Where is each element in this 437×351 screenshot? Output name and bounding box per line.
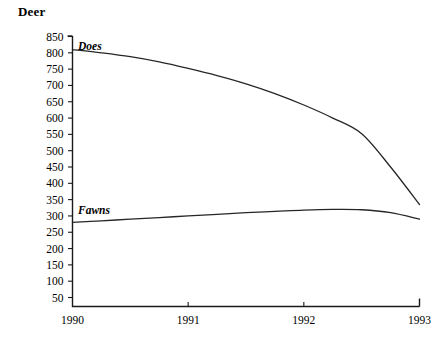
y-axis-tick-label: 700 <box>46 79 64 91</box>
y-axis-tick-label: 650 <box>46 96 64 108</box>
y-axis-tick-label: 50 <box>52 292 64 304</box>
deer-population-chart: Deer 50100150200250300350400450500550600… <box>0 0 437 351</box>
x-axis-tick-label: 1991 <box>177 314 200 326</box>
y-axis-tick-label: 750 <box>46 63 64 75</box>
y-axis-tick-label: 850 <box>46 31 64 43</box>
y-axis-tick-label: 400 <box>46 177 64 189</box>
y-axis-tick-label: 500 <box>46 145 64 157</box>
y-axis-tick-label: 300 <box>46 210 64 222</box>
axis-lines <box>73 36 420 307</box>
y-axis-tick-label: 550 <box>46 128 64 140</box>
y-axis-tick-group: 5010015020025030035040045050055060065070… <box>46 31 72 304</box>
chart-plot-area: 5010015020025030035040045050055060065070… <box>0 0 437 351</box>
y-axis-tick-label: 600 <box>46 112 64 124</box>
x-axis-tick-label: 1990 <box>61 314 84 326</box>
x-axis-tick-group: 1990199119921993 <box>61 302 431 326</box>
series-line-fawns <box>73 209 420 222</box>
y-axis-tick-label: 150 <box>46 259 64 271</box>
series-line-does <box>73 50 420 205</box>
y-axis-tick-label: 450 <box>46 161 64 173</box>
y-axis-tick-label: 100 <box>46 275 64 287</box>
series-label-does: Does <box>77 40 102 52</box>
y-axis-tick-label: 350 <box>46 194 64 206</box>
y-axis-tick-label: 250 <box>46 226 64 238</box>
y-axis-tick-label: 200 <box>46 243 64 255</box>
x-axis-tick-label: 1993 <box>408 314 431 326</box>
series-line-group <box>73 50 420 223</box>
y-axis-tick-label: 800 <box>46 47 64 59</box>
series-label-group: DoesFawns <box>77 40 110 216</box>
series-label-fawns: Fawns <box>77 204 110 216</box>
x-axis-tick-label: 1992 <box>292 314 315 326</box>
